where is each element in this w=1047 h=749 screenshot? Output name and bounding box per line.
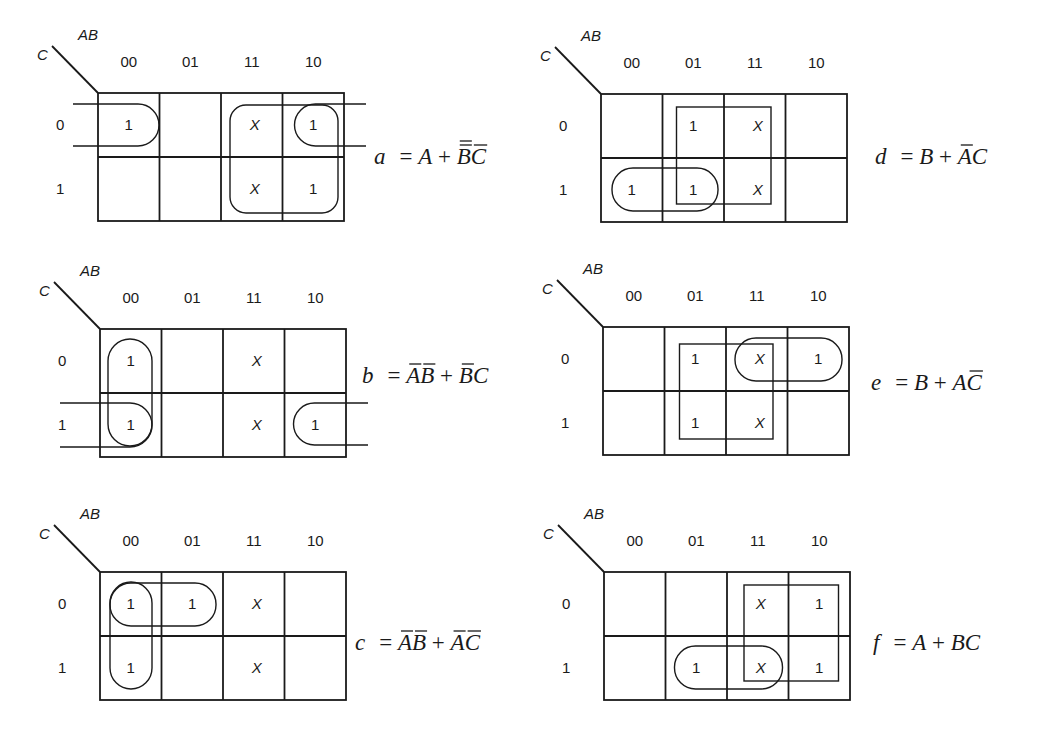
- row-header: 0: [561, 350, 569, 367]
- column-variable-label: AB: [580, 27, 601, 44]
- row-header: 1: [561, 414, 569, 431]
- column-header: 10: [305, 53, 322, 70]
- column-header: 01: [182, 53, 199, 70]
- one-cell: 1: [815, 595, 823, 612]
- column-header: 11: [244, 53, 260, 70]
- dont-care-cell: X: [755, 595, 767, 612]
- column-header: 11: [246, 532, 262, 549]
- wrap-group-left: [60, 403, 152, 447]
- literal: C: [473, 363, 489, 388]
- one-cell: 1: [815, 659, 823, 676]
- corner-diagonal: [555, 47, 601, 94]
- column-header: 00: [623, 54, 640, 71]
- dont-care-cell: X: [754, 414, 766, 431]
- literal: C: [972, 144, 988, 169]
- column-header: 00: [122, 532, 139, 549]
- one-cell: 1: [127, 595, 135, 612]
- dont-care-cell: X: [251, 595, 263, 612]
- column-header: 01: [184, 532, 201, 549]
- equation-d: d= B + AC: [875, 144, 988, 169]
- row-variable-label: C: [39, 525, 50, 542]
- column-variable-label: AB: [79, 262, 100, 279]
- literal: C: [471, 144, 487, 169]
- literal: A: [951, 370, 968, 395]
- column-variable-label: AB: [583, 505, 604, 522]
- kmap-e: ABC00011110011X11Xe= B + AC: [542, 260, 983, 455]
- column-header: 10: [307, 532, 324, 549]
- row-header: 1: [58, 659, 66, 676]
- one-cell: 1: [309, 116, 317, 133]
- column-header: 01: [688, 532, 705, 549]
- equation-output-name: d: [875, 144, 887, 169]
- column-header: 11: [749, 287, 765, 304]
- literal: A: [449, 630, 466, 655]
- column-header: 01: [184, 289, 201, 306]
- dont-care-cell: X: [249, 116, 261, 133]
- literal: B: [919, 144, 933, 169]
- dont-care-cell: X: [752, 181, 764, 198]
- kmap-b: ABC00011110011X1X1b= AB + BC: [39, 262, 489, 457]
- equation-output-name: b: [362, 363, 374, 388]
- corner-diagonal: [558, 525, 604, 572]
- wrap-group-left: [73, 104, 159, 146]
- one-cell: 1: [127, 352, 135, 369]
- one-cell: 1: [689, 117, 697, 134]
- row-header: 0: [562, 595, 570, 612]
- literal: A: [404, 363, 421, 388]
- row-header: 0: [56, 116, 64, 133]
- one-cell: 1: [689, 181, 697, 198]
- literal: C: [965, 630, 981, 655]
- column-header: 00: [626, 532, 643, 549]
- row-variable-label: C: [542, 280, 553, 297]
- literal: A: [956, 144, 973, 169]
- group-B-C: [675, 646, 783, 689]
- equation-output-name: a: [374, 144, 386, 169]
- row-header: 1: [559, 181, 567, 198]
- literal: B: [412, 630, 426, 655]
- row-variable-label: C: [543, 525, 554, 542]
- one-cell: 1: [692, 659, 700, 676]
- kmap-a: ABC00011110011X1X1a= A + BC: [37, 26, 487, 221]
- dont-care-cell: X: [249, 180, 261, 197]
- grouping-loops: [73, 104, 366, 213]
- one-cell: 1: [127, 659, 135, 676]
- row-variable-label: C: [37, 46, 48, 63]
- karnaugh-map-figure: ABC00011110011X1X1a= A + BCABC0001111001…: [0, 0, 1047, 749]
- column-header: 01: [685, 54, 702, 71]
- kmap-c: ABC000111100111X1Xc= AB + AC: [39, 505, 481, 700]
- literal: A: [416, 144, 433, 169]
- corner-diagonal: [557, 280, 603, 327]
- literal: B: [459, 363, 473, 388]
- column-variable-label: AB: [582, 260, 603, 277]
- column-header: 10: [808, 54, 825, 71]
- dont-care-cell: X: [251, 659, 263, 676]
- one-cell: 1: [691, 414, 699, 431]
- column-header: 00: [625, 287, 642, 304]
- column-header: 10: [811, 532, 828, 549]
- column-header: 00: [120, 53, 137, 70]
- row-variable-label: C: [540, 47, 551, 64]
- row-header: 1: [58, 416, 66, 433]
- corner-diagonal: [52, 46, 98, 93]
- equation-f: f= A + BC: [873, 630, 981, 655]
- column-header: 10: [810, 287, 827, 304]
- literal: B: [951, 630, 965, 655]
- kmap-canvas: ABC00011110011X1X1a= A + BCABC0001111001…: [0, 0, 1047, 749]
- row-header: 0: [559, 117, 567, 134]
- literal: C: [465, 630, 481, 655]
- literal: B: [914, 370, 928, 395]
- column-variable-label: AB: [79, 505, 100, 522]
- one-cell: 1: [814, 350, 822, 367]
- column-header: 11: [246, 289, 262, 306]
- dont-care-cell: X: [251, 416, 263, 433]
- one-cell: 1: [628, 181, 636, 198]
- literal: C: [967, 370, 983, 395]
- dont-care-cell: X: [755, 659, 767, 676]
- equation-a: a= A + BC: [374, 144, 487, 169]
- wrap-group-right: [295, 104, 367, 146]
- group-A: [230, 105, 338, 213]
- one-cell: 1: [691, 350, 699, 367]
- row-header: 1: [562, 659, 570, 676]
- equation-output-name: f: [873, 630, 883, 655]
- equation-b: b= AB + BC: [362, 363, 489, 388]
